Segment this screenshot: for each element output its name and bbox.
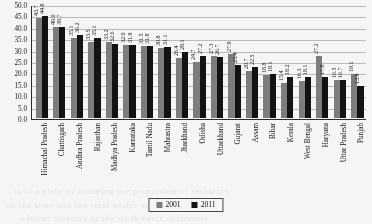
y-axis-tick: 25.0 [14, 59, 27, 67]
x-axis-category-labels: Himachal PradeshChattisgarhAndhra Prades… [32, 122, 366, 192]
bar-2011[interactable]: 18.1 [305, 77, 311, 118]
plot-area: 43.744.840.039.735.136.233.535.133.232.6… [31, 6, 366, 120]
legend-item-2011[interactable]: 2011 [192, 200, 216, 209]
y-axis-tick: 15.0 [14, 82, 27, 90]
y-axis-tick: 20.0 [14, 70, 27, 78]
bar-value-label: 26.7 [214, 44, 220, 55]
bar-value-label: 31.9 [127, 33, 133, 44]
x-axis-category-label: Himachal Pradesh [41, 123, 49, 176]
y-axis-tick: 50.0 [14, 2, 27, 10]
bar-2011[interactable]: 35.1 [94, 38, 100, 118]
bar-value-label: 35.1 [68, 25, 74, 36]
plot-frame: 43.744.840.039.735.136.233.535.133.232.6… [31, 6, 366, 120]
bar-2011[interactable]: 31.1 [164, 47, 170, 118]
x-axis-category[interactable]: Bihar [261, 122, 279, 192]
x-axis-category[interactable]: Karnataka [120, 122, 138, 192]
x-axis-category-label: Kerala [287, 123, 295, 142]
bar-group: 27.326.7 [208, 6, 226, 118]
x-axis-category[interactable]: Odisha [190, 122, 208, 192]
bar-2011[interactable]: 18.2 [287, 77, 293, 118]
bar-2011[interactable]: 16.7 [340, 80, 346, 118]
x-axis-category-label: Mahrastra [164, 123, 172, 152]
x-axis-category-label: Punjab [357, 123, 365, 143]
bar-2011[interactable]: 44.8 [42, 16, 48, 118]
x-axis-category-label: Rajasthan [94, 123, 102, 151]
x-axis-category[interactable]: Andhra Pradesh [67, 122, 85, 192]
bar-group: 27.923.4 [226, 6, 244, 118]
y-axis-tick: 35.0 [14, 36, 27, 44]
x-axis-category-label: Andhra Pradesh [76, 123, 84, 169]
bar-2011[interactable]: 22.5 [252, 67, 258, 118]
bar-2011[interactable]: 13.9 [357, 86, 363, 118]
x-axis-category[interactable]: Assam [243, 122, 261, 192]
x-axis-category[interactable]: West Bengal [296, 122, 314, 192]
bar-2011[interactable]: 27.2 [200, 56, 206, 118]
x-axis-category[interactable]: Uttar Pradesh [331, 122, 349, 192]
x-axis-category-label: Uttar Pradesh [340, 123, 348, 162]
bar-value-label: 17.8 [319, 65, 325, 76]
bar-value-label: 16.7 [337, 67, 343, 78]
x-axis-category-label: Chattisgarh [58, 123, 66, 156]
x-axis-category[interactable]: Jharkhand [173, 122, 191, 192]
bar-group: 16.516.7 [331, 6, 349, 118]
bar-group: 33.232.6 [103, 6, 121, 118]
x-axis-category-label: Karnataka [129, 123, 137, 153]
x-axis-category[interactable]: Punjab [348, 122, 366, 192]
page-bleed-line-3: a broad measure of the work-force indica… [20, 213, 372, 223]
bar-2011[interactable]: 19.1 [270, 74, 276, 118]
x-axis-category[interactable]: Gujarat [225, 122, 243, 192]
bar-group: 43.744.8 [33, 6, 51, 118]
bar-value-label: 18.1 [302, 64, 308, 75]
bar-group: 33.535.1 [86, 6, 104, 118]
x-axis-category[interactable]: Haryana [313, 122, 331, 192]
bar-2011[interactable]: 31.8 [147, 46, 153, 119]
bar-value-label: 43.7 [33, 6, 39, 17]
bar-group: 26.429.1 [173, 6, 191, 118]
x-axis-category[interactable]: Himachal Pradesh [32, 122, 50, 192]
bar-2011[interactable]: 29.1 [182, 52, 188, 118]
bar-value-label: 24.7 [190, 49, 196, 60]
bar-2011[interactable]: 39.7 [59, 27, 65, 118]
bar-group: 30.831.1 [156, 6, 174, 118]
bar-2011[interactable]: 26.7 [217, 57, 223, 118]
bar-value-label: 29.1 [179, 39, 185, 50]
x-axis-category[interactable]: Uttarkhand [208, 122, 226, 192]
x-axis-category[interactable]: Rajasthan [85, 122, 103, 192]
bar-value-label: 36.2 [74, 23, 80, 34]
x-axis-category[interactable]: Mahrastra [155, 122, 173, 192]
bar-value-label: 18.2 [284, 64, 290, 75]
bar-value-label: 27.2 [197, 43, 203, 54]
bar-value-label: 39.7 [56, 15, 62, 26]
legend-item-2001[interactable]: 2001 [156, 200, 180, 209]
bar-value-label: 27.2 [313, 43, 319, 54]
bar-2011[interactable]: 32.6 [112, 44, 118, 118]
bar-2011[interactable]: 17.8 [322, 77, 328, 118]
legend-swatch-icon-2011 [192, 202, 198, 208]
bar-value-label: 31.8 [144, 33, 150, 44]
bar-2011[interactable]: 36.2 [77, 35, 83, 118]
x-axis-category-label: Assam [252, 123, 260, 143]
bar-group: 18.819.1 [261, 6, 279, 118]
x-axis-category[interactable]: Kerala [278, 122, 296, 192]
bar-value-label: 13.9 [354, 74, 360, 85]
y-axis-tick: 40.0 [14, 25, 27, 33]
bar-group: 19.113.9 [349, 6, 367, 118]
x-axis-category[interactable]: Chattisgarh [50, 122, 68, 192]
bar-groups: 43.744.840.039.735.136.233.535.133.232.6… [33, 6, 366, 118]
bar-group: 20.722.5 [243, 6, 261, 118]
x-axis-category-label: Jharkhand [181, 123, 189, 153]
bar-value-label: 30.8 [155, 35, 161, 46]
x-axis-category[interactable]: Tamil Nadu [137, 122, 155, 192]
bar-group: 15.418.2 [278, 6, 296, 118]
y-axis-tick: 10.0 [14, 93, 27, 101]
bar-value-label: 23.4 [232, 52, 238, 63]
bar-group: 24.727.2 [191, 6, 209, 118]
x-axis-category[interactable]: Madhya Pradesh [102, 122, 120, 192]
bar-value-label: 32.0 [120, 32, 126, 43]
bar-group: 31.531.8 [138, 6, 156, 118]
legend-label-2011: 2011 [201, 200, 216, 209]
legend-label-2001: 2001 [165, 200, 180, 209]
bar-value-label: 19.1 [267, 62, 273, 73]
bar-2011[interactable]: 23.4 [235, 65, 241, 118]
bar-2011[interactable]: 31.9 [129, 45, 135, 118]
